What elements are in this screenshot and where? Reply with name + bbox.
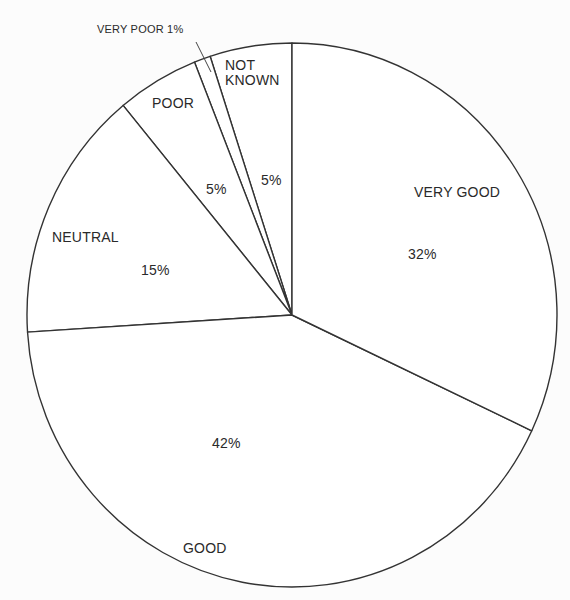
label-not-known: NOT KNOWN xyxy=(225,58,280,88)
pct-neutral: 15% xyxy=(141,263,170,278)
pct-not-known: 5% xyxy=(261,173,282,188)
pct-poor: 5% xyxy=(206,182,227,197)
label-poor: POOR xyxy=(152,96,194,111)
pct-good: 42% xyxy=(212,436,241,451)
label-neutral: NEUTRAL xyxy=(52,230,119,245)
label-not-known-line2: KNOWN xyxy=(225,73,280,88)
label-good: GOOD xyxy=(183,541,227,556)
pct-very-good: 32% xyxy=(408,247,437,262)
pie-chart xyxy=(0,0,570,600)
label-not-known-line1: NOT xyxy=(225,58,280,73)
pie-slices xyxy=(27,43,557,587)
label-very-good: VERY GOOD xyxy=(414,185,500,200)
label-very-poor: VERY POOR 1% xyxy=(97,23,183,35)
